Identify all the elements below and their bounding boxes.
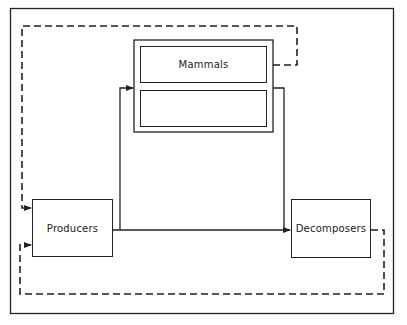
edge-mammals-to-decomposers [273,88,284,230]
producers-label: Producers [47,223,98,234]
decomposers-box: Decomposers [291,199,371,258]
edge-producers-to-mammals [120,88,133,230]
mammals-box: Mammals [140,46,267,83]
mammals-lower-box [140,90,267,127]
decomposers-label: Decomposers [296,223,367,234]
mammals-label: Mammals [179,59,229,70]
producers-box: Producers [32,199,113,257]
